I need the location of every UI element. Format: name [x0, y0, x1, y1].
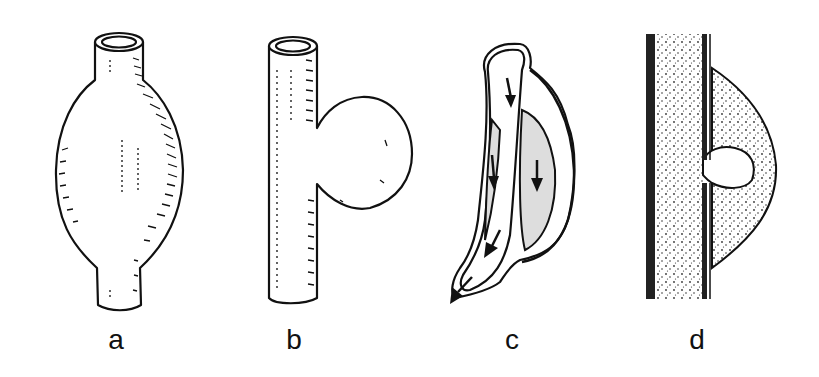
panel-a-label: a [96, 326, 136, 354]
false-aneurysm-illustration [0, 0, 819, 377]
panel-d-label: d [677, 326, 717, 354]
panel-b-label: b [274, 326, 314, 354]
panel-d [0, 0, 819, 377]
panel-c-label: c [492, 326, 532, 354]
